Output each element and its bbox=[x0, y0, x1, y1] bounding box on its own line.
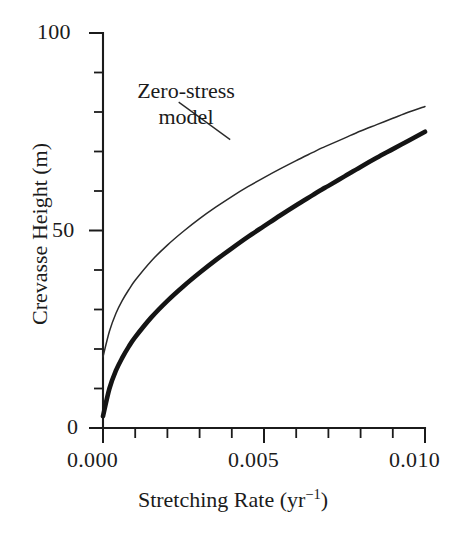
y-tick-label-100: 100 bbox=[37, 21, 71, 43]
annotation-line-1: Zero-stress bbox=[110, 78, 262, 104]
x-tick-label-1: 0.005 bbox=[228, 449, 279, 471]
x-axis-title-base: Stretching Rate (yr bbox=[138, 487, 305, 512]
annotation-line-2: model bbox=[110, 104, 262, 130]
y-tick-label-0: 0 bbox=[67, 416, 78, 438]
x-tick-label-2: 0.010 bbox=[389, 449, 440, 471]
y-tick-label-50: 50 bbox=[52, 219, 75, 241]
y-axis-title: Crevasse Height (m) bbox=[27, 94, 53, 374]
x-axis-title-exponent: −1 bbox=[305, 486, 320, 502]
x-tick-label-0: 0.000 bbox=[67, 449, 118, 471]
x-axis-title-tail: ) bbox=[321, 487, 328, 512]
annotation-zero-stress-model: Zero-stress model bbox=[110, 78, 262, 129]
crevasse-height-chart: 100 50 0 0.000 0.005 0.010 Stretching Ra… bbox=[0, 0, 466, 535]
x-axis-major-ticks bbox=[103, 428, 425, 443]
y-axis-major-ticks bbox=[89, 33, 103, 428]
x-axis-title: Stretching Rate (yr−1) bbox=[0, 487, 466, 513]
series-curve-full-stress-model bbox=[103, 132, 425, 416]
